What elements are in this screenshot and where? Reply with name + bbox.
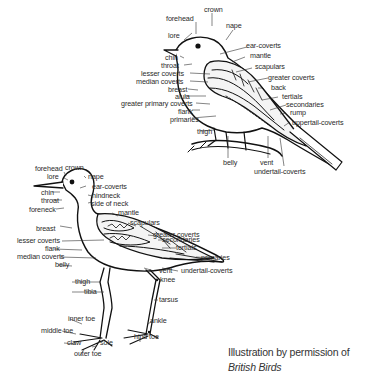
wader-label-nape: nape	[88, 173, 104, 181]
wader-label-throat: throat	[41, 197, 59, 205]
label-ear-coverts: ear-coverts	[246, 42, 281, 50]
wader-label-scapulars: scapulars	[130, 219, 160, 227]
wader-label-hind-toe: hind toe	[134, 333, 159, 341]
label-rump: rump	[290, 109, 306, 117]
label-back: back	[271, 84, 286, 92]
label-lore: lore	[168, 32, 180, 40]
label-forehead: forehead	[166, 15, 194, 23]
wader-label-ankle: ankle	[150, 317, 167, 325]
wader-label-crown: crown	[65, 164, 84, 172]
credit-line: Illustration by permission of	[228, 346, 349, 358]
illustration-credit: Illustration by permission of British Bi…	[228, 345, 349, 375]
label-uppertail-coverts: uppertail-coverts	[292, 119, 343, 127]
wader-label-inner-toe: inner toe	[68, 315, 95, 323]
label-crown: crown	[204, 6, 223, 14]
wader-label-sole: sole	[100, 339, 113, 347]
label-primaries: primaries	[170, 116, 199, 124]
wader-label-claw: claw	[67, 339, 81, 347]
wader-label-tarsus: tarsus	[159, 296, 178, 304]
wader-label-side-of-neck: side of neck	[91, 200, 128, 208]
label-nape: nape	[226, 22, 242, 30]
label-belly: belly	[223, 159, 237, 167]
wader-label-mantle: mantle	[118, 209, 139, 217]
wader-label-thigh: thigh	[75, 278, 90, 286]
label-undertail-coverts: undertail-coverts	[254, 168, 305, 176]
wader-label-belly: belly	[55, 261, 69, 269]
wader-label-tibia: tibia	[84, 288, 97, 296]
wader-label-primaries: primaries	[201, 254, 230, 262]
label-thigh: thigh	[197, 128, 212, 136]
wader-label-ear-coverts: ear-coverts	[92, 183, 127, 191]
label-scapulars: scapulars	[255, 63, 285, 71]
wader-label-outer-toe: outer toe	[74, 350, 101, 358]
wader-label-undertail-coverts: undertail-coverts	[181, 267, 232, 275]
wader-label-vent: vent	[159, 267, 172, 275]
wader-label-foreneck: foreneck	[29, 206, 56, 214]
bird-topography-figure: crown forehead nape lore ear-coverts man…	[0, 0, 370, 379]
credit-source: British Birds	[228, 360, 349, 375]
wader-label-middle-toe: middle toe	[41, 327, 73, 335]
label-greater-coverts: greater coverts	[268, 74, 314, 82]
bird-illustrations	[0, 0, 370, 379]
wader-label-breast: breast	[36, 225, 55, 233]
label-vent: vent	[260, 159, 273, 167]
wader-label-lore: lore	[47, 173, 59, 181]
wader-label-tertials: tertials	[176, 244, 196, 252]
label-mantle: mantle	[250, 52, 271, 60]
wader-label-knee: knee	[160, 276, 175, 284]
